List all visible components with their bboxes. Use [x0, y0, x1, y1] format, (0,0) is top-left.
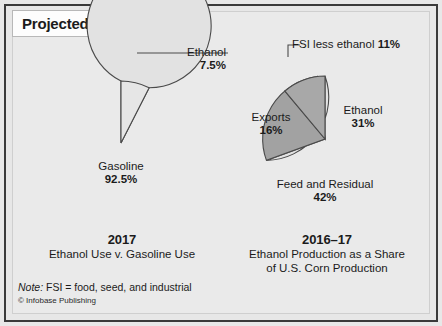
figure-note-text: FSI = food, seed, and industrial — [43, 281, 192, 293]
caption-left-chart: 2017 Ethanol Use v. Gasoline Use — [16, 232, 228, 261]
slice-label-gasoline: Gasoline 92.5% — [71, 160, 171, 187]
slice-label-gasoline-value: 92.5% — [71, 173, 171, 186]
slice-label-feed-residual: Feed and Residual 42% — [255, 178, 395, 205]
slice-label-ethanol-right: Ethanol 31% — [330, 104, 396, 131]
callout-ethanol-left-value: 7.5% — [168, 59, 226, 72]
caption-left-year: 2017 — [16, 232, 228, 247]
callout-fsi-label: FSI less ethanol — [292, 38, 378, 50]
caption-right-chart: 2016–17 Ethanol Production as a Share of… — [224, 232, 430, 275]
slice-label-exports: Exports 16% — [240, 111, 302, 138]
figure-note: Note: FSI = food, seed, and industrial — [18, 281, 192, 293]
figure-plate: Projected Relationships Ethanol 7. — [0, 0, 442, 326]
callout-fsi-less-ethanol: FSI less ethanol 11% — [292, 38, 438, 51]
caption-right-subtitle-line1: Ethanol Production as a Share — [224, 247, 430, 261]
callout-ethanol-left: Ethanol 7.5% — [168, 46, 226, 73]
slice-label-exports-name: Exports — [240, 111, 302, 124]
caption-right-subtitle-line2: of U.S. Corn Production — [224, 261, 430, 275]
figure-note-prefix: Note: — [18, 281, 43, 293]
slice-label-gasoline-name: Gasoline — [71, 160, 171, 173]
slice-label-ethanol-right-name: Ethanol — [330, 104, 396, 117]
slice-label-feed-residual-name: Feed and Residual — [255, 178, 395, 191]
slice-label-feed-residual-value: 42% — [255, 191, 395, 204]
pie-slice-ethanol-left — [121, 81, 149, 143]
caption-left-subtitle: Ethanol Use v. Gasoline Use — [16, 247, 228, 261]
slice-label-exports-value: 16% — [240, 124, 302, 137]
caption-right-year: 2016–17 — [224, 232, 430, 247]
slice-label-ethanol-right-value: 31% — [330, 117, 396, 130]
figure-credit: © Infobase Publishing — [18, 296, 96, 305]
callout-fsi-value: 11% — [378, 38, 400, 50]
callout-ethanol-left-label: Ethanol — [168, 46, 226, 59]
